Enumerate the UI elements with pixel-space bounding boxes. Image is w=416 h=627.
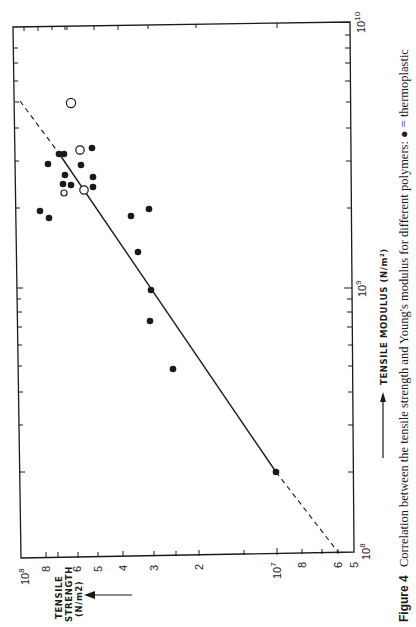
data-point <box>170 366 177 373</box>
y-axis-title-line1: TENSILE <box>54 576 64 619</box>
y-tick-3e7: 3 <box>148 565 160 571</box>
y-axis-title-line3: (N/m2) <box>74 581 84 617</box>
plot-frame <box>13 22 354 558</box>
figure-label: Figure 4 <box>397 575 411 622</box>
x-tick-1e10: 1010 <box>353 11 367 33</box>
x-axis-arrow-icon <box>380 392 386 402</box>
data-point-open <box>61 190 67 196</box>
data-point <box>148 287 155 294</box>
fit-line-dashed-upper <box>20 101 58 152</box>
data-point <box>135 249 142 256</box>
data-point-open <box>80 186 88 194</box>
fit-line-dashed-lower <box>276 472 338 552</box>
data-point-open <box>76 146 84 154</box>
y-tick-1e7: 107 <box>269 562 283 579</box>
data-point <box>89 145 96 152</box>
figure-canvas: 108 109 1010 TENSILE MODULUS (N/m²) 108 … <box>0 0 416 627</box>
data-point <box>90 174 97 181</box>
y-tick-5e7: 5 <box>92 566 104 572</box>
y-tick-2e7: 2 <box>193 564 205 570</box>
data-point <box>90 184 97 191</box>
data-point <box>62 172 69 179</box>
data-point <box>45 161 52 168</box>
y-tick-4e7: 4 <box>117 565 129 571</box>
y-axis-title-group: TENSILE STRENGTH (N/m2) <box>54 566 132 622</box>
y-tick-8e6: 8 <box>296 562 308 568</box>
y-axis-title-line2: STRENGTH <box>64 566 74 622</box>
series-open-circles <box>61 98 88 196</box>
y-tick-6e6: 6 <box>332 562 344 568</box>
data-point <box>128 213 135 220</box>
fit-line-solid <box>58 152 276 472</box>
data-point <box>37 208 44 215</box>
x-tick-1e8: 108 <box>358 543 372 560</box>
y-tick-1e8: 108 <box>17 568 31 585</box>
data-point <box>146 206 153 213</box>
data-point <box>60 181 67 188</box>
x-tick-1e9: 109 <box>354 280 368 297</box>
series-thermoplastic-filled <box>37 145 280 476</box>
figure-caption-text: Correlation between the tensile strength… <box>397 49 411 567</box>
data-point <box>147 318 154 325</box>
y-tick-5e6: 5 <box>348 562 360 568</box>
left-edge-ticks <box>14 48 25 472</box>
x-axis-title: TENSILE MODULUS (N/m²) <box>379 248 389 385</box>
data-point <box>273 469 280 476</box>
data-point <box>61 151 68 158</box>
x-axis-tick-labels: 108 109 1010 <box>353 11 372 560</box>
data-point <box>46 215 53 222</box>
y-tick-8e7: 8 <box>40 566 52 572</box>
y-axis-arrow-icon <box>84 591 95 599</box>
x-axis-title-group: TENSILE MODULUS (N/m²) <box>379 248 389 458</box>
figure-caption: Figure 4 Correlation between the tensile… <box>397 49 411 622</box>
data-point <box>68 182 75 189</box>
data-point-open <box>66 98 75 107</box>
data-point <box>78 162 85 169</box>
